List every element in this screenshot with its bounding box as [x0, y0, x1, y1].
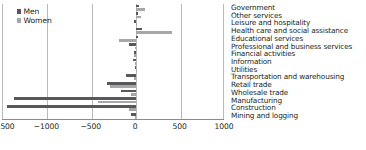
bar-row — [3, 35, 223, 43]
category-label: Mining and logging — [231, 112, 365, 120]
bar-row — [3, 81, 223, 89]
bar-women — [98, 101, 136, 104]
x-tick-label: 0 — [133, 122, 138, 131]
x-tick-label: 500 — [172, 122, 186, 131]
x-axis-line — [2, 119, 224, 120]
bar-men — [14, 97, 137, 100]
bar-row — [3, 27, 223, 35]
bar-men — [126, 74, 136, 77]
bar-men — [136, 36, 138, 39]
bar-women — [134, 54, 136, 57]
bar-row — [3, 50, 223, 58]
bar-men — [134, 20, 137, 23]
bar-women — [136, 31, 172, 34]
bar-women — [135, 47, 136, 50]
bar-men — [135, 66, 136, 69]
x-tick-label: −1000 — [34, 122, 59, 131]
x-tick-label: 1000 — [215, 122, 234, 131]
bar-men — [133, 59, 137, 62]
chart-legend: MenWomen — [17, 7, 52, 25]
bar-row — [3, 66, 223, 74]
bar-women — [136, 23, 137, 26]
bar-row — [3, 89, 223, 97]
chart-root: MenWomen GovernmentOther servicesLeisure… — [0, 0, 366, 150]
bar-men — [136, 12, 138, 15]
category-label-list: GovernmentOther servicesLeisure and hosp… — [231, 4, 365, 120]
legend-label: Women — [24, 16, 52, 25]
bar-row — [3, 97, 223, 105]
x-tick-label: −500 — [81, 122, 101, 131]
legend-item[interactable]: Men — [17, 7, 52, 16]
bar-row — [3, 105, 223, 113]
bar-women — [136, 8, 144, 11]
bar-women — [110, 85, 136, 88]
x-tick-label: −1500 — [0, 122, 15, 131]
bar-women — [119, 39, 136, 42]
bar-women — [135, 62, 136, 65]
bar-row — [3, 58, 223, 66]
bar-row — [3, 74, 223, 82]
bar-men — [7, 105, 136, 108]
legend-swatch-icon — [17, 18, 21, 22]
bar-row — [3, 43, 223, 51]
legend-label: Men — [24, 7, 40, 16]
bar-women — [134, 77, 137, 80]
legend-item[interactable]: Women — [17, 16, 52, 25]
bar-men — [129, 43, 136, 46]
bar-men — [134, 51, 137, 54]
legend-swatch-icon — [17, 9, 21, 13]
bar-women — [136, 70, 137, 73]
bar-women — [131, 93, 136, 96]
bar-men — [136, 28, 141, 31]
bar-men — [131, 113, 136, 116]
bar-women — [129, 108, 136, 111]
bar-men — [107, 82, 136, 85]
bar-men — [121, 90, 136, 93]
bar-men — [136, 5, 139, 8]
bar-women — [136, 16, 141, 19]
